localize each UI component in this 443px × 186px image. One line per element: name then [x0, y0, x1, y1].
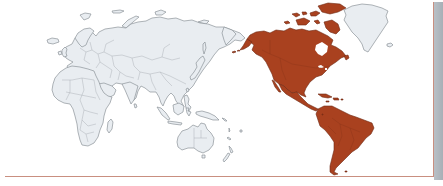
greenland: [344, 4, 388, 52]
severnaya-zemlya: [155, 10, 166, 15]
puerto-rico: [341, 99, 343, 100]
new-guinea: [196, 111, 219, 120]
south-america: [316, 106, 374, 175]
hispaniola: [333, 98, 339, 100]
north-america: [247, 28, 346, 97]
ireland: [58, 51, 62, 55]
borneo: [173, 103, 184, 115]
new-zealand-north: [229, 146, 233, 153]
world-map: [0, 0, 443, 186]
indian-subcontinent: [122, 82, 138, 104]
franz-josef-land: [112, 10, 124, 13]
solomon-islands: [222, 118, 227, 121]
victoria-island: [296, 18, 310, 25]
galapagos-islands: [322, 114, 323, 115]
falkland-islands: [345, 171, 347, 172]
taiwan: [186, 88, 189, 92]
sumatra: [157, 107, 170, 120]
iceland-east: [387, 43, 393, 47]
eastern-hemisphere-landmasses: [47, 10, 245, 162]
ellesmere-island: [318, 3, 346, 14]
new-zealand-south: [223, 153, 230, 162]
new-caledonia: [227, 137, 231, 140]
sri-lanka: [134, 104, 137, 108]
iceland: [47, 38, 59, 44]
svalbard: [80, 13, 91, 20]
cuba: [318, 94, 332, 98]
madagascar: [107, 119, 113, 133]
fiji: [240, 130, 242, 132]
tasmania: [202, 155, 205, 158]
newfoundland: [344, 55, 349, 60]
aleutian-islands: [232, 50, 240, 53]
java: [168, 121, 182, 125]
map-figure: [0, 0, 443, 186]
greenland-group: [344, 4, 393, 52]
baffin-island: [324, 20, 340, 34]
vanuatu: [229, 128, 230, 132]
jamaica: [326, 101, 329, 102]
great-britain: [62, 47, 67, 57]
